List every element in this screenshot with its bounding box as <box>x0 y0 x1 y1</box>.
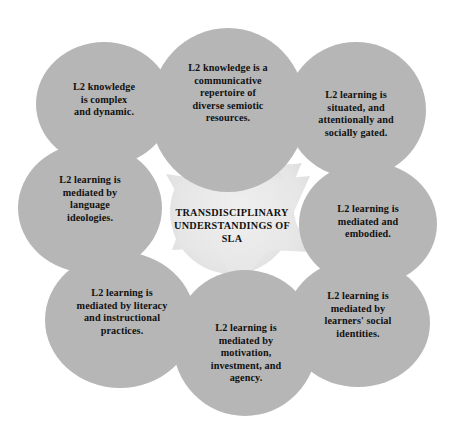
flower-diagram-graphic <box>0 0 455 428</box>
petal-shape-bottom <box>173 270 317 416</box>
petal-shape-left <box>18 143 162 273</box>
petal-shape-top <box>150 28 306 192</box>
petal-shape-top-right <box>286 42 426 178</box>
transdisciplinary-sla-diagram: L2 knowledge is a communicative repertoi… <box>0 0 455 428</box>
petal-shape-bottom-left <box>45 252 195 388</box>
